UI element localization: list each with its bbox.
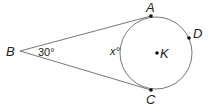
label-C: C [146, 92, 156, 105]
geometry-diagram: A B C D K 30° x° [0, 0, 214, 105]
angle-B-label: 30° [38, 46, 55, 58]
point-D [187, 36, 191, 40]
arc-x-label: x° [109, 45, 121, 57]
label-D: D [193, 26, 202, 41]
diagram-canvas: A B C D K 30° x° [0, 0, 214, 105]
label-A: A [145, 0, 155, 15]
label-B: B [6, 44, 15, 59]
point-K [155, 51, 159, 55]
label-K: K [160, 46, 170, 61]
